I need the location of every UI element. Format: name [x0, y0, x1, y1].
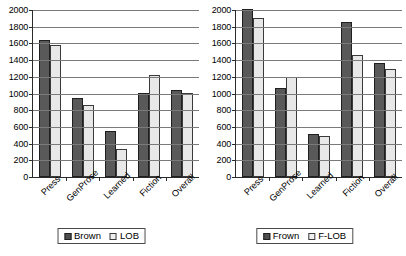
gridline — [236, 144, 402, 145]
gridline — [33, 27, 199, 28]
y-tick-label: 2000 — [9, 6, 28, 15]
y-tick-label: 1800 — [9, 22, 28, 31]
y-tick-label: 600 — [217, 122, 231, 131]
gridline — [33, 10, 199, 11]
legend-right: FrownF-LOB — [256, 228, 353, 244]
gridline — [236, 77, 402, 78]
y-tick-label: 1400 — [212, 56, 231, 65]
legend-item-brown[interactable]: Brown — [64, 231, 101, 241]
x-label-slot: Fiction — [335, 180, 368, 222]
gridline — [33, 110, 199, 111]
bar-frown-fiction — [341, 22, 352, 177]
bar-brown-overall — [171, 90, 182, 177]
legend-label: Brown — [74, 231, 101, 241]
gridline — [33, 94, 199, 95]
y-tick-label: 2000 — [212, 6, 231, 15]
legend-label: Frown — [273, 231, 299, 241]
legend-item-lob[interactable]: LOB — [110, 231, 139, 241]
y-tick-label: 600 — [14, 122, 28, 131]
x-label-slot: Overall — [369, 180, 402, 222]
y-tick-label: 1600 — [212, 39, 231, 48]
y-tick-label: 400 — [14, 139, 28, 148]
y-tick-label: 800 — [14, 106, 28, 115]
bar-brown-fiction — [138, 93, 149, 177]
x-label-slot: Press — [235, 180, 268, 222]
bar-brown-learned — [105, 131, 116, 177]
gridline — [236, 60, 402, 61]
gridline — [236, 127, 402, 128]
y-tick-label: 400 — [217, 139, 231, 148]
y-tick-label: 1000 — [9, 89, 28, 98]
x-label-slot: GenProse — [65, 180, 98, 222]
gridline — [236, 43, 402, 44]
bar-frown-genprose — [275, 88, 286, 177]
x-label-slot: Overall — [166, 180, 199, 222]
y-tick-label: 800 — [217, 106, 231, 115]
gridline — [33, 43, 199, 44]
legend-swatch-icon — [110, 233, 117, 240]
bar-lob-genprose — [83, 105, 94, 177]
bar-lob-overall — [182, 93, 193, 177]
legend-swatch-icon — [64, 233, 71, 240]
legend-label: LOB — [120, 231, 139, 241]
y-axis-left: 2000180016001400120010008006004002000 — [0, 0, 30, 180]
plot-area-right — [235, 10, 402, 178]
bar-f-lob-fiction — [352, 55, 363, 177]
gridline — [33, 60, 199, 61]
legend-item-frown[interactable]: Frown — [263, 231, 299, 241]
gridline — [33, 160, 199, 161]
chart-panel-right: 2000180016001400120010008006004002000 Pr… — [203, 0, 406, 256]
y-tick-label: 1000 — [212, 89, 231, 98]
plot-wrap-right: 2000180016001400120010008006004002000 — [203, 0, 406, 180]
bar-frown-learned — [308, 134, 319, 177]
plot-wrap-left: 2000180016001400120010008006004002000 — [0, 0, 203, 180]
y-tick-label: 1200 — [9, 72, 28, 81]
y-tick-label: 1600 — [9, 39, 28, 48]
legend-item-f-lob[interactable]: F-LOB — [308, 231, 346, 241]
gridline — [33, 77, 199, 78]
gridline — [33, 144, 199, 145]
y-tick-mark — [29, 177, 33, 178]
y-tick-label: 200 — [217, 156, 231, 165]
y-tick-label: 0 — [226, 173, 231, 182]
legend-left: BrownLOB — [57, 228, 146, 244]
x-label-slot: Learned — [99, 180, 132, 222]
x-label-slot: Learned — [302, 180, 335, 222]
y-axis-right: 2000180016001400120010008006004002000 — [203, 0, 233, 180]
x-axis-labels-right: PressGenProseLearnedFictionOverall — [235, 180, 402, 222]
plot-area-left — [32, 10, 199, 178]
gridline — [236, 110, 402, 111]
gridline — [33, 127, 199, 128]
y-tick-label: 0 — [23, 173, 28, 182]
gridline — [236, 160, 402, 161]
x-axis-labels-left: PressGenProseLearnedFictionOverall — [32, 180, 199, 222]
y-tick-mark — [232, 177, 236, 178]
gridline — [236, 10, 402, 11]
gridline — [236, 27, 402, 28]
legend-swatch-icon — [308, 233, 315, 240]
y-tick-label: 1200 — [212, 72, 231, 81]
y-tick-label: 200 — [14, 156, 28, 165]
x-label-slot: Fiction — [132, 180, 165, 222]
chart-panel-left: 2000180016001400120010008006004002000 Pr… — [0, 0, 203, 256]
y-tick-label: 1400 — [9, 56, 28, 65]
gridline — [236, 94, 402, 95]
bar-f-lob-press — [253, 18, 264, 177]
legend-label: F-LOB — [318, 231, 346, 241]
y-tick-label: 1800 — [212, 22, 231, 31]
x-label-slot: GenProse — [268, 180, 301, 222]
legend-swatch-icon — [263, 233, 270, 240]
chart-page: 2000180016001400120010008006004002000 Pr… — [0, 0, 406, 256]
x-label-slot: Press — [32, 180, 65, 222]
